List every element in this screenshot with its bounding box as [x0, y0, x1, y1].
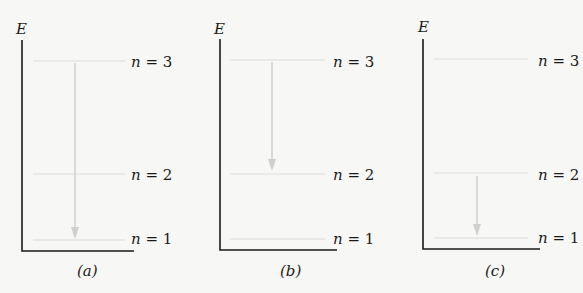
level-label-n2: n = 2 — [538, 166, 579, 184]
energy-axis-label: E — [418, 18, 429, 36]
level-label-n1: n = 1 — [333, 230, 374, 248]
energy-axis-label: E — [16, 20, 27, 38]
level-label-n2: n = 2 — [333, 166, 374, 184]
panel-a: E n = 3 n = 2 n = 1 (a) — [0, 0, 200, 293]
energy-axis — [220, 39, 337, 250]
panel-b: E n = 3 n = 2 n = 1 (b) — [200, 0, 400, 293]
level-label-n3: n = 3 — [131, 53, 172, 71]
energy-axis — [423, 39, 540, 249]
level-label-n3: n = 3 — [538, 52, 579, 70]
energy-axis — [22, 40, 134, 251]
energy-diagram-b — [200, 0, 400, 293]
transition-arrow-head — [268, 159, 276, 171]
level-label-n3: n = 3 — [333, 53, 374, 71]
panel-c: E n = 3 n = 2 n = 1 (c) — [400, 0, 583, 293]
level-label-n1: n = 1 — [131, 230, 172, 248]
panel-caption-b: (b) — [280, 262, 301, 280]
level-label-n1: n = 1 — [538, 229, 579, 247]
level-label-n2: n = 2 — [131, 166, 172, 184]
energy-diagram-a — [0, 0, 200, 293]
transition-arrow-head — [71, 227, 79, 239]
panel-caption-c: (c) — [485, 262, 505, 280]
energy-axis-label: E — [214, 20, 225, 38]
panel-caption-a: (a) — [77, 262, 98, 280]
transition-arrow-head — [473, 224, 481, 236]
energy-diagram-c — [400, 0, 583, 293]
